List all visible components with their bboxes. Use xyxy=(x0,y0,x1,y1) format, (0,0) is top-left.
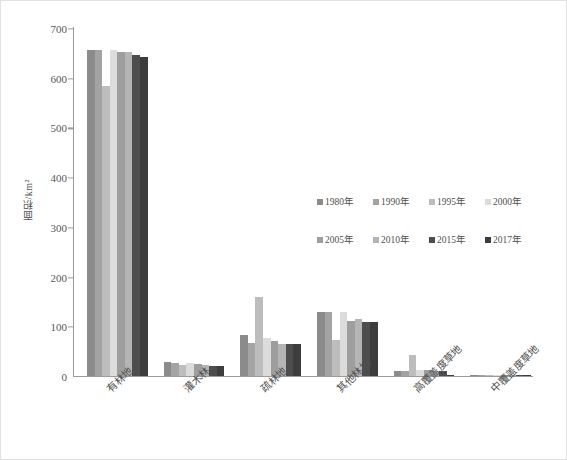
legend-label: 2010年 xyxy=(381,235,410,245)
legend-item: 1980年 xyxy=(317,197,373,207)
bar xyxy=(217,366,225,375)
y-tick-label: 300 xyxy=(35,222,67,234)
y-tick-mark xyxy=(68,78,73,79)
y-tick-label: 400 xyxy=(35,172,67,184)
legend-swatch-icon xyxy=(485,199,491,205)
legend-swatch-icon xyxy=(373,199,379,205)
legend-swatch-icon xyxy=(485,237,491,243)
y-tick-label: 500 xyxy=(35,122,67,134)
y-tick-mark xyxy=(68,277,73,278)
legend-item: 2017年 xyxy=(485,235,541,245)
legend-swatch-icon xyxy=(429,199,435,205)
y-tick-mark xyxy=(68,227,73,228)
bar xyxy=(325,312,333,375)
y-tick-label: 200 xyxy=(35,272,67,284)
legend-item: 2015年 xyxy=(429,235,485,245)
legend-item: 2000年 xyxy=(485,197,541,207)
bar xyxy=(470,375,478,376)
legend-label: 1990年 xyxy=(381,197,410,207)
legend-label: 1980年 xyxy=(325,197,354,207)
legend-label: 2015年 xyxy=(437,235,466,245)
bar xyxy=(317,312,325,375)
bar xyxy=(102,86,110,376)
bar xyxy=(117,52,125,375)
chart-legend: 1980年1990年1995年2000年 2005年2010年2015年2017… xyxy=(317,197,541,273)
y-tick-mark xyxy=(68,327,73,328)
bar xyxy=(125,52,133,375)
bar xyxy=(164,362,172,375)
bar xyxy=(132,55,140,376)
legend-item: 1995年 xyxy=(429,197,485,207)
legend-swatch-icon xyxy=(317,237,323,243)
legend-row-2: 2005年2010年2015年2017年 xyxy=(317,235,541,245)
bar xyxy=(110,50,118,376)
bar xyxy=(87,50,95,376)
bar xyxy=(409,355,417,376)
y-tick-label: 600 xyxy=(35,73,67,85)
legend-item: 2010年 xyxy=(373,235,429,245)
legend-label: 2017年 xyxy=(493,235,522,245)
chart-figure: 面积/km² 0100200300400500600700 有林地灌木林疏林地其… xyxy=(0,0,567,460)
x-axis-line xyxy=(73,376,533,377)
bar xyxy=(394,371,402,375)
legend-item: 2005年 xyxy=(317,235,373,245)
y-tick-label: 700 xyxy=(35,23,67,35)
bar xyxy=(478,375,486,376)
bar xyxy=(293,344,301,375)
legend-swatch-icon xyxy=(373,237,379,243)
legend-item: 1990年 xyxy=(373,197,429,207)
legend-swatch-icon xyxy=(429,237,435,243)
bar xyxy=(140,57,148,375)
legend-label: 1995年 xyxy=(437,197,466,207)
y-axis-label: 面积/km² xyxy=(23,179,39,221)
bar xyxy=(340,312,348,375)
bar xyxy=(332,340,340,376)
bar xyxy=(255,297,263,376)
y-tick-mark xyxy=(68,28,73,29)
y-axis-line xyxy=(73,27,74,377)
legend-row-1: 1980年1990年1995年2000年 xyxy=(317,197,541,207)
bar xyxy=(95,50,103,376)
y-tick-mark xyxy=(68,178,73,179)
bar xyxy=(179,365,187,376)
y-tick-mark xyxy=(68,128,73,129)
bar-group xyxy=(240,28,301,376)
bar-group xyxy=(87,28,148,376)
bar xyxy=(523,375,531,376)
bar xyxy=(263,338,271,376)
bar xyxy=(171,363,179,375)
bar-group xyxy=(164,28,225,376)
bar xyxy=(485,375,493,376)
y-tick-label: 0 xyxy=(35,371,67,383)
bar xyxy=(447,375,455,376)
bar xyxy=(240,335,248,376)
legend-label: 2005年 xyxy=(325,235,354,245)
bar xyxy=(401,371,409,376)
y-tick-label: 100 xyxy=(35,321,67,333)
legend-label: 2000年 xyxy=(493,197,522,207)
bar xyxy=(248,343,256,376)
legend-swatch-icon xyxy=(317,199,323,205)
